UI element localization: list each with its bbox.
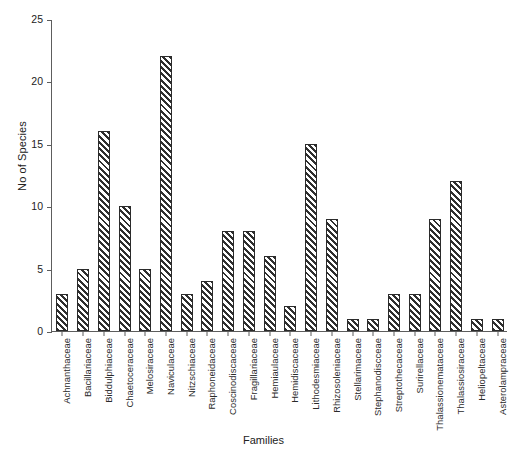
bar xyxy=(492,319,504,331)
x-label-slot: Hemiaulaceae xyxy=(258,332,279,432)
bars-layer xyxy=(52,20,507,331)
y-tick-label: 20 xyxy=(31,75,43,87)
x-axis-tick-label: Stephanodiscceae xyxy=(372,338,383,416)
x-axis-tick-label: Heliopeltaceae xyxy=(476,338,487,401)
x-axis-tick-label: Thalassionemataceae xyxy=(434,338,445,431)
bar-slot xyxy=(321,20,342,331)
bar-slot xyxy=(52,20,73,331)
bar-slot xyxy=(93,20,114,331)
x-axis-tick-label: Melosiraceae xyxy=(144,338,155,394)
y-axis-title: No of Species xyxy=(16,96,28,216)
x-label-slot: Coscinodiscaceae xyxy=(217,332,238,432)
x-label-slot: Rhizosoleniaceae xyxy=(320,332,341,432)
x-axis-tick-label: Bacillariaceae xyxy=(82,338,93,397)
y-tick-label: 25 xyxy=(31,13,43,25)
bar xyxy=(119,206,131,331)
x-label-slot: Asterolampraceae xyxy=(486,332,507,432)
x-label-slot: Surirellaceae xyxy=(403,332,424,432)
x-label-slot: Naviculaceae xyxy=(155,332,176,432)
x-label-slot: Chaetoceraceae xyxy=(113,332,134,432)
bar xyxy=(264,256,276,331)
bar xyxy=(98,131,110,331)
x-axis-tick-label: Chaetoceraceae xyxy=(124,338,135,408)
x-axis-tick-label: Achnanthaceae xyxy=(61,338,72,404)
bar xyxy=(243,231,255,331)
x-axis-tick-label: Thalassiosiraceae xyxy=(455,338,466,414)
bar xyxy=(326,219,338,331)
x-axis-tick-label: Coscinodiscaceae xyxy=(227,338,238,415)
x-label-slot: Thalassiosiraceae xyxy=(445,332,466,432)
x-label-slot: Achnanthaceae xyxy=(51,332,72,432)
bar xyxy=(139,269,151,331)
y-tick-label: 0 xyxy=(37,325,43,337)
x-axis-tick-label: Surirellaceae xyxy=(414,338,425,393)
x-axis-tick-label: Lithodesmiaceae xyxy=(310,338,321,410)
x-axis-tick-label: Asterolampraceae xyxy=(497,338,508,415)
x-label-slot: Fragillariaceae xyxy=(238,332,259,432)
bar xyxy=(56,294,68,331)
bar xyxy=(77,269,89,331)
x-label-slot: Nitzschiaceae xyxy=(175,332,196,432)
bar xyxy=(160,56,172,331)
bar-slot xyxy=(467,20,488,331)
y-tick-label: 5 xyxy=(37,263,43,275)
plot-area: 0510152025 xyxy=(51,20,507,332)
bar-slot xyxy=(135,20,156,331)
x-label-slot: Streptothecaceae xyxy=(383,332,404,432)
bar xyxy=(409,294,421,331)
bar xyxy=(305,144,317,331)
bar-slot xyxy=(487,20,508,331)
bar-slot xyxy=(114,20,135,331)
bar-slot xyxy=(446,20,467,331)
x-axis-labels: AchnanthaceaeBacillariaceaeBiddulphiacea… xyxy=(51,332,507,432)
x-label-slot: Heliopeltaceae xyxy=(466,332,487,432)
x-axis-title: Families xyxy=(0,434,527,446)
x-label-slot: Hemidiscaceae xyxy=(279,332,300,432)
x-label-slot: Raphoneidaceae xyxy=(196,332,217,432)
bar xyxy=(450,181,462,331)
bar xyxy=(201,281,213,331)
bar-slot xyxy=(197,20,218,331)
bar xyxy=(388,294,400,331)
bar-slot xyxy=(239,20,260,331)
x-axis-tick-label: Hemiaulaceae xyxy=(269,338,280,399)
x-axis-tick-label: Fragillariaceae xyxy=(248,338,259,400)
x-label-slot: Melosiraceae xyxy=(134,332,155,432)
bar-slot xyxy=(342,20,363,331)
bar-slot xyxy=(404,20,425,331)
bar xyxy=(471,319,483,331)
x-axis-tick-label: Rhizosoleniaceae xyxy=(331,338,342,413)
x-axis-tick-label: Biddulphiaceae xyxy=(103,338,114,403)
y-tick-label: 10 xyxy=(31,200,43,212)
bar-slot xyxy=(363,20,384,331)
x-label-slot: Biddulphiaceae xyxy=(92,332,113,432)
x-label-slot: Lithodesmiaceae xyxy=(300,332,321,432)
bar-slot xyxy=(218,20,239,331)
bar-slot xyxy=(425,20,446,331)
x-label-slot: Thalassionemataceae xyxy=(424,332,445,432)
bar-slot xyxy=(301,20,322,331)
x-axis-tick-label: Streptothecaceae xyxy=(393,338,404,412)
bar xyxy=(222,231,234,331)
bar-slot xyxy=(384,20,405,331)
x-axis-tick-label: Nitzschiaceae xyxy=(186,338,197,397)
x-axis-tick-label: Stellarimaceae xyxy=(352,338,363,401)
bar-chart: No of Species 0510152025 AchnanthaceaeBa… xyxy=(0,0,527,460)
bar-slot xyxy=(259,20,280,331)
x-label-slot: Stellarimaceae xyxy=(341,332,362,432)
x-axis-tick-label: Hemidiscaceae xyxy=(289,338,300,403)
x-label-slot: Bacillariaceae xyxy=(72,332,93,432)
bar-slot xyxy=(176,20,197,331)
bar xyxy=(284,306,296,331)
x-label-slot: Stephanodiscceae xyxy=(362,332,383,432)
bar xyxy=(347,319,359,331)
bar-slot xyxy=(280,20,301,331)
bar xyxy=(367,319,379,331)
bar-slot xyxy=(156,20,177,331)
bar xyxy=(181,294,193,331)
y-tick-label: 15 xyxy=(31,138,43,150)
x-axis-tick-label: Raphoneidaceae xyxy=(206,338,217,410)
bar xyxy=(429,219,441,331)
x-axis-tick-label: Naviculaceae xyxy=(165,338,176,395)
bar-slot xyxy=(73,20,94,331)
